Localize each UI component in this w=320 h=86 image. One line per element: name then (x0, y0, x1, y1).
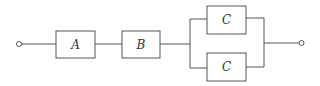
block-c-top-label: C (222, 13, 231, 27)
block-a-label: A (70, 38, 80, 52)
block-c-bottom-label: C (222, 60, 231, 74)
block-b-label: B (136, 38, 146, 52)
block-diagram: A B C C (0, 0, 320, 86)
input-terminal (17, 42, 22, 47)
output-terminal (299, 41, 304, 46)
